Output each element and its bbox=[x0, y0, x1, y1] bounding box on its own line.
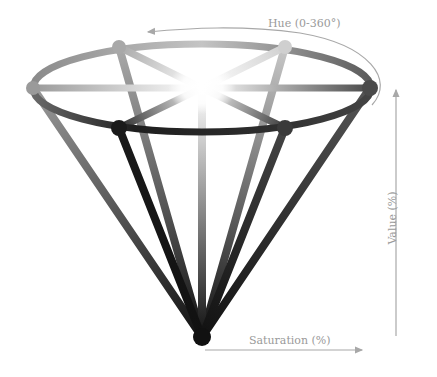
node-back-left bbox=[112, 40, 126, 54]
node-left bbox=[26, 81, 40, 95]
node-back-right bbox=[278, 40, 292, 54]
node-front-left bbox=[111, 120, 127, 136]
hsv-cone-diagram bbox=[0, 0, 437, 377]
node-front-right bbox=[277, 120, 293, 136]
hue-label: Hue (0-360°) bbox=[268, 17, 340, 30]
saturation-label: Saturation (%) bbox=[249, 334, 331, 347]
value-label: Value (%) bbox=[386, 191, 399, 244]
node-right bbox=[362, 80, 378, 96]
black-vertex bbox=[193, 328, 211, 346]
white-center-glow bbox=[168, 62, 236, 114]
